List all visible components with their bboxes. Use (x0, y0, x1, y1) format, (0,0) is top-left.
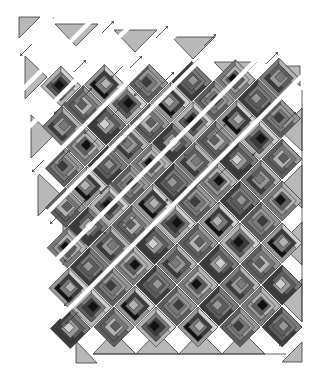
setting-triangle (19, 17, 40, 38)
strip-gap (10, 8, 60, 58)
setting-triangle (282, 342, 302, 362)
log-cabin-blocks (41, 58, 302, 348)
pressing-arrow-icon (130, 56, 142, 68)
setting-triangle (172, 37, 215, 59)
quilt-assembly-diagram (0, 0, 322, 378)
pressing-arrow-icon (156, 26, 168, 38)
pressing-arrow-icon (111, 66, 123, 78)
pressing-arrow-icon (102, 21, 114, 33)
setting-triangle (76, 341, 97, 363)
